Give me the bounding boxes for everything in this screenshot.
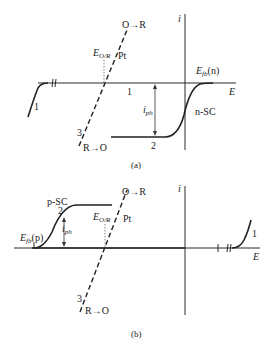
panel-a-caption: (a) — [131, 160, 141, 170]
panel-a-potential-axis-label: E — [228, 86, 235, 97]
panel-b-pt-dashed-line — [80, 190, 127, 312]
panel-b-efb-label: Efb(p) — [19, 232, 43, 245]
panel-b-o-to-r-label: O→R — [122, 186, 146, 197]
panel-b-curve-1-label: 1 — [252, 228, 257, 239]
panel-a-nsc-label: n-SC — [195, 106, 216, 117]
panel-b-curve-2-label: 2 — [58, 205, 63, 216]
panel-b-potential-axis-label: E — [252, 251, 259, 262]
panel-a-current-axis-label: i — [178, 13, 181, 24]
panel-b: i E 1 p-SC 2 iph Efb(p) O→R R→O 3 Pt EO/… — [14, 183, 260, 339]
panel-b-pt-label: Pt — [123, 213, 132, 224]
panel-b-eor-label: EO/R — [92, 211, 111, 224]
panel-b-current-axis-label: i — [178, 183, 181, 194]
panel-b-r-to-o-label: R→O — [85, 305, 109, 316]
panel-a-pt-dashed-line — [79, 30, 127, 146]
panel-a-curve-2-label: 2 — [151, 140, 156, 151]
panel-a-curve-1-label: 1 — [34, 101, 39, 112]
panel-b-curve-1-right — [232, 220, 251, 248]
panel-a-pt-label: Pt — [118, 50, 127, 61]
panel-a-curve-1-mid-label: 1 — [127, 86, 132, 97]
panel-b-iph-label: iph — [62, 223, 72, 236]
panel-a-iph-label: iph — [143, 104, 153, 117]
panel-a: i E 1 1 n-SC 2 iph O→R R→O 3 Pt EO/R Efb… — [28, 13, 236, 170]
panel-a-o-to-r-label: O→R — [122, 19, 146, 30]
panel-a-eor-label: EO/R — [92, 47, 111, 60]
panel-b-curve-3-label: 3 — [77, 293, 82, 304]
panel-a-r-to-o-label: R→O — [83, 142, 107, 153]
panel-b-psc-curve — [34, 205, 112, 248]
panel-a-efb-label: Efb(n) — [195, 65, 219, 78]
photoelectrochemistry-diagram: i E 1 1 n-SC 2 iph O→R R→O 3 Pt EO/R Efb… — [0, 0, 275, 349]
panel-a-curve-3-label: 3 — [77, 127, 82, 138]
panel-b-caption: (b) — [131, 329, 142, 339]
